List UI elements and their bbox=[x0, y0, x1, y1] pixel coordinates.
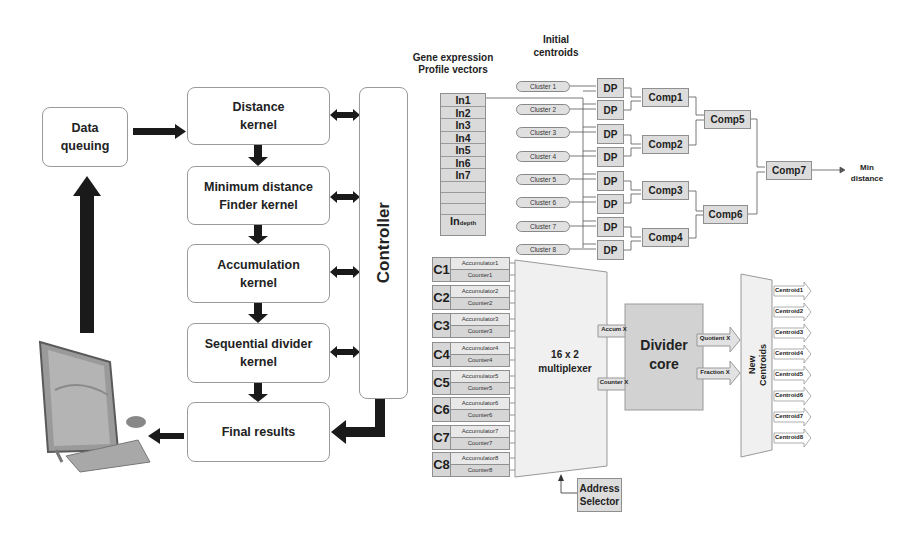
divider-unit-shapes bbox=[0, 0, 914, 539]
new-centroids-label-wrap: New Centroids bbox=[745, 325, 771, 405]
centroid-label: Centroid1 bbox=[774, 287, 804, 293]
quotient-x-label: Quotient X bbox=[698, 335, 732, 341]
divider-core-label: Divider core bbox=[625, 336, 703, 374]
centroid-label: Centroid2 bbox=[774, 308, 804, 314]
centroid-label: Centroid8 bbox=[774, 434, 804, 440]
centroid-label: Centroid3 bbox=[774, 329, 804, 335]
centroid-label: Centroid7 bbox=[774, 413, 804, 419]
fraction-x-label: Fraction X bbox=[698, 369, 732, 375]
address-selector-box: Address Selector bbox=[577, 478, 622, 512]
new-centroids-label: New Centroids bbox=[747, 344, 769, 386]
centroid-label: Centroid6 bbox=[774, 392, 804, 398]
multiplexer-label: 16 x 2 multiplexer bbox=[530, 348, 600, 376]
accum-x-label: Accum X bbox=[600, 326, 628, 332]
counter-x-label: Counter X bbox=[598, 379, 630, 385]
centroid-label: Centroid5 bbox=[774, 371, 804, 377]
centroid-label: Centroid4 bbox=[774, 350, 804, 356]
